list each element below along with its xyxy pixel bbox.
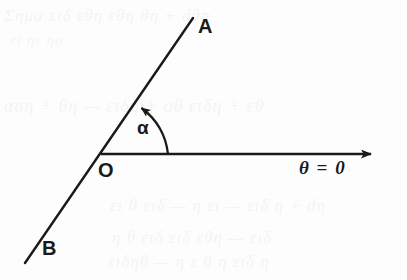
label-ray-a: A [198, 16, 212, 36]
label-angle-alpha: α [137, 118, 149, 137]
label-origin: O [98, 160, 114, 180]
label-ray-b: B [42, 238, 56, 258]
figure-canvas: Σημα ειδ εθη εθη θη + dθη ει ητ ηο αση +… [0, 0, 407, 280]
line-AB [25, 18, 193, 263]
angle-diagram [0, 0, 407, 280]
label-reference-axis: θ = 0 [299, 158, 346, 177]
